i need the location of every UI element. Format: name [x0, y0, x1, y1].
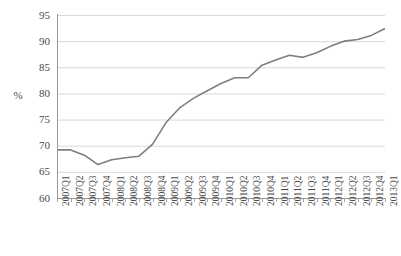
- x-tick-label: 2008Q3: [143, 175, 153, 206]
- x-tick-label: 2013Q1: [389, 175, 399, 206]
- x-tick-label: 2009Q3: [198, 175, 208, 206]
- x-tick-label: 2012Q4: [375, 175, 385, 206]
- y-axis-line: [57, 14, 58, 199]
- x-tick-mark: [57, 199, 58, 202]
- x-tick-label: 2012Q2: [348, 175, 358, 206]
- x-tick-label: 2008Q2: [129, 175, 139, 206]
- x-tick-label: 2011Q2: [293, 176, 303, 206]
- x-tick-label: 2009Q4: [211, 175, 221, 206]
- y-tick-label: 80: [39, 88, 50, 99]
- x-tick-label: 2007Q3: [88, 175, 98, 206]
- x-tick-label: 2009Q1: [170, 175, 180, 206]
- x-tick-label: 2010Q4: [266, 175, 276, 206]
- y-tick-label: 95: [39, 10, 50, 21]
- x-tick-label: 2008Q4: [157, 175, 167, 206]
- x-tick-label: 2007Q1: [61, 175, 71, 206]
- y-tick-label: 70: [39, 140, 50, 151]
- x-tick-label: 2011Q4: [321, 176, 331, 206]
- x-tick-mark: [180, 199, 181, 202]
- x-tick-mark: [303, 199, 304, 202]
- x-tick-label: 2008Q1: [116, 175, 126, 206]
- x-tick-mark: [98, 199, 99, 202]
- x-tick-label: 2010Q1: [225, 175, 235, 206]
- x-tick-mark: [385, 199, 386, 202]
- y-tick-label: 90: [39, 36, 50, 47]
- x-tick-label: 2009Q2: [184, 175, 194, 206]
- x-tick-mark: [221, 199, 222, 202]
- x-tick-mark: [139, 199, 140, 202]
- x-tick-label: 2011Q3: [307, 176, 317, 206]
- plot-area: [57, 15, 385, 198]
- x-tick-label: 2007Q4: [102, 175, 112, 206]
- y-tick-label: 60: [39, 193, 50, 204]
- x-tick-label: 2010Q2: [239, 175, 249, 206]
- x-tick-mark: [344, 199, 345, 202]
- plot-svg: [57, 15, 385, 198]
- x-tick-label: 2012Q3: [362, 175, 372, 206]
- x-tick-label: 2012Q1: [334, 175, 344, 206]
- y-tick-label: 85: [39, 62, 50, 73]
- series-line-path: [57, 29, 385, 165]
- x-tick-label: 2007Q2: [75, 175, 85, 206]
- line-chart: % 9590858075706560 2007Q12007Q22007Q3200…: [0, 0, 401, 256]
- x-tick-label: 2011Q1: [280, 176, 290, 206]
- gridlines: [57, 16, 385, 199]
- y-tick-label: 65: [39, 166, 50, 177]
- x-tick-label: 2010Q3: [252, 175, 262, 206]
- y-axis-tick-labels: 9590858075706560: [26, 0, 54, 256]
- x-tick-mark: [262, 199, 263, 202]
- y-tick-label: 75: [39, 114, 50, 125]
